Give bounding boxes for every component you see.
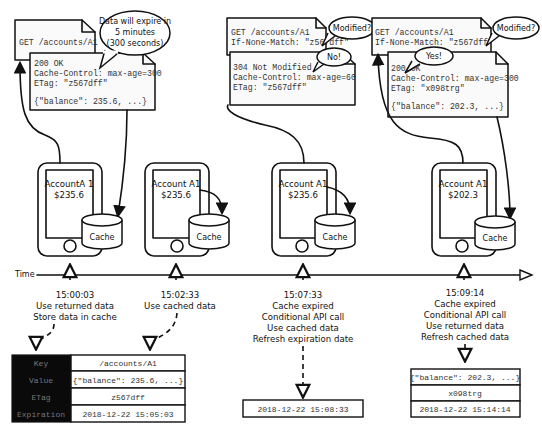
response-3-arrow — [497, 117, 510, 217]
phone-3-cache-read-arrow — [327, 187, 350, 212]
response-3-line-1: Cache-Control: max-age=300 — [391, 74, 519, 83]
event-3-line-1: Conditional API call — [262, 312, 345, 322]
cache-value-value: {"balance": 235.6, ...} — [73, 376, 183, 385]
event-4-line-1: Conditional API call — [424, 310, 507, 320]
response-3-note: 200 OK Cache-Control: max-age=300 ETag: … — [388, 52, 519, 117]
phone-4-account: Account A1 — [439, 179, 488, 189]
response-1-line-4: {"balance": 235.6, ...} — [34, 97, 147, 106]
response-1-arrow — [118, 110, 127, 215]
response-1-line-1: Cache-Control: max-age=300 — [34, 69, 162, 78]
cache-expiration-value: 2018-12-22 15:05:03 — [82, 410, 173, 419]
timeline-label: Time — [14, 270, 35, 279]
event-2-line-0: Use cached data — [144, 301, 216, 311]
timeline-arrowhead — [520, 270, 532, 280]
phone-2-cache: Cache — [189, 214, 229, 249]
event-2-time: 15:02:33 — [161, 290, 200, 300]
bubble-line-2: (300 seconds) — [107, 39, 164, 48]
bubble-line-1: 5 minutes — [115, 28, 155, 37]
phone-2-balance: $235.6 — [161, 190, 191, 200]
response-2-line-1: Cache-Control: max-age=60 — [233, 73, 356, 82]
cache-update-2-value: {"balance": 202.3, ...} — [410, 373, 520, 382]
event-3-line-3: Refresh expiration date — [253, 334, 354, 344]
response-3-bubble: Yes! — [425, 52, 442, 61]
phone-1-account: AccountA 1 — [45, 179, 94, 189]
cache-update-1-expiration: 2018-12-22 15:08:33 — [257, 405, 348, 414]
response-3-line-2: ETag: "x098trg" — [391, 84, 465, 93]
response-1-line-0: 200 OK — [34, 59, 64, 68]
event-1-time: 15:00:03 — [56, 290, 95, 300]
phone-1-cache-label: Cache — [90, 233, 115, 242]
event-4-time: 15:09:14 — [446, 288, 485, 298]
response-2-bubble: No! — [327, 53, 341, 62]
phone-3-account: Account A1 — [279, 179, 328, 189]
response-2-line-0: 304 Not Modified — [233, 63, 312, 72]
event-1-to-table-arrow — [36, 324, 54, 348]
phone-1-balance: $235.6 — [54, 190, 84, 200]
cache-table: Key /accounts/A1 Value {"balance": 235.6… — [12, 355, 185, 422]
request-1-line-0: GET /accounts/A1 — [19, 38, 98, 47]
request-3-line-0: GET /accounts/A1 — [375, 28, 454, 37]
http-caching-diagram: GET /accounts/A1 200 OK Cache-Control: m… — [0, 0, 542, 435]
phone-4: Account A1 $202.3 Cache — [432, 163, 515, 256]
cache-expiration-label: Expiration — [17, 410, 65, 419]
event-1: 15:00:03 Use returned data Store data in… — [33, 290, 117, 348]
cache-etag-label: ETag — [31, 393, 50, 402]
phone-2-cache-label: Cache — [197, 233, 222, 242]
phone-2-account: Account A1 — [152, 179, 201, 189]
event-3-line-0: Cache expired — [272, 301, 334, 311]
event-4-line-3: Refresh cached data — [421, 332, 509, 342]
event-2-to-table-arrow — [150, 313, 177, 348]
request-2-arrow — [227, 105, 304, 163]
cache-update-2: {"balance": 202.3, ...} x098trg 2018-12-… — [410, 369, 520, 417]
phone-3-cache: Cache — [315, 214, 355, 249]
event-4: 15:09:14 Cache expired Conditional API c… — [421, 288, 509, 360]
request-2-group: GET /accounts/A1 If-None-Match: "z567dff… — [227, 17, 375, 163]
cache-update-1: 2018-12-22 15:08:33 — [243, 400, 363, 417]
cache-value-label: Value — [29, 376, 53, 385]
phone-3: Account A1 $235.6 Cache — [272, 163, 355, 256]
event-2: 15:02:33 Use cached data — [144, 290, 216, 348]
phone-4-balance: $202.3 — [448, 190, 478, 200]
request-2-bubble: Modified? — [333, 24, 371, 33]
event-3-line-2: Use cached data — [267, 323, 339, 333]
cache-etag-value: z567dff — [111, 393, 145, 402]
event-4-line-2: Use returned data — [426, 321, 504, 331]
cache-key-value: /accounts/A1 — [99, 359, 157, 368]
request-2-line-0: GET /accounts/A1 — [231, 28, 310, 37]
phone-2-cache-read-arrow — [200, 190, 222, 212]
response-2-line-2: ETag: "z567dff" — [233, 83, 307, 92]
event-4-line-0: Cache expired — [434, 299, 496, 309]
cache-key-label: Key — [34, 359, 49, 368]
event-1-line-1: Store data in cache — [33, 312, 117, 322]
event-1-line-0: Use returned data — [36, 301, 114, 311]
request-3-line-1: If-None-Match: "z567dff" — [375, 38, 493, 47]
response-1-line-2: ETag: "z567dff" — [34, 79, 108, 88]
bubble-line-0: Data will expire in — [99, 17, 171, 26]
timeline: Time — [14, 266, 532, 280]
phone-4-cache-label: Cache — [483, 234, 508, 243]
event-3: 15:07:33 Cache expired Conditional API c… — [253, 290, 354, 396]
phone-4-cache: Cache — [475, 216, 515, 250]
phone-3-cache-label: Cache — [323, 233, 348, 242]
cache-update-2-expiration: 2018-12-22 15:14:14 — [419, 405, 510, 414]
modified-bubble-2: Modified? — [486, 17, 539, 46]
phone-1: AccountA 1 $235.6 Cache — [38, 163, 122, 256]
request-3-bubble: Modified? — [497, 24, 535, 33]
phone-3-balance: $235.6 — [288, 190, 318, 200]
response-3-line-4: {"balance": 202.3, ...} — [391, 102, 504, 111]
cache-update-2-etag: x098trg — [448, 389, 482, 398]
event-3-time: 15:07:33 — [284, 290, 323, 300]
phone-1-cache: Cache — [82, 214, 122, 249]
phone-2: Account A1 $235.6 Cache — [145, 163, 229, 256]
response-1-note: 200 OK Cache-Control: max-age=300 ETag: … — [30, 53, 162, 110]
